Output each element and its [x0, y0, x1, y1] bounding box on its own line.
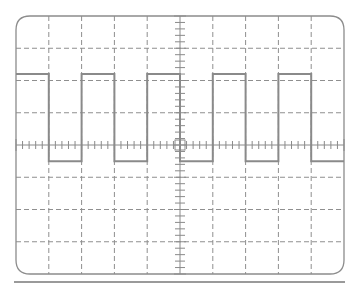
oscilloscope-screen: [0, 0, 360, 288]
square-wave-trace: [16, 74, 344, 161]
